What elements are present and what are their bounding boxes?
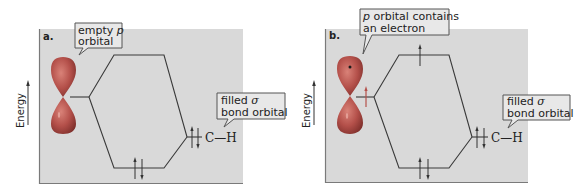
energy-axis-a: Energy — [15, 80, 30, 128]
energy-label: Energy — [301, 93, 312, 128]
energy-axis-b: Energy — [301, 80, 316, 128]
svg-text:bond orbital: bond orbital — [221, 106, 288, 119]
energy-label: Energy — [15, 93, 26, 128]
callout-filled-sigma-bond: filled σ bond orbital — [217, 93, 288, 127]
panel-a-letter: a. — [43, 31, 54, 42]
svg-text:an electron: an electron — [363, 22, 425, 35]
panel-a-background — [39, 29, 243, 184]
ch-bond-label: C—H — [205, 131, 237, 145]
panel-b: b. Energy — [301, 9, 574, 183]
callout-filled-sigma-bond: filled σ bond orbital — [503, 95, 574, 128]
ch-bond-label: C—H — [491, 131, 523, 145]
svg-text:bond orbital: bond orbital — [507, 107, 574, 120]
svg-text:orbital: orbital — [78, 35, 113, 48]
hyperconjugation-diagram: a. Energy — [0, 0, 586, 196]
panel-a: a. Energy — [15, 23, 288, 184]
panel-b-letter: b. — [329, 30, 340, 41]
electron-dot-icon — [349, 66, 352, 69]
